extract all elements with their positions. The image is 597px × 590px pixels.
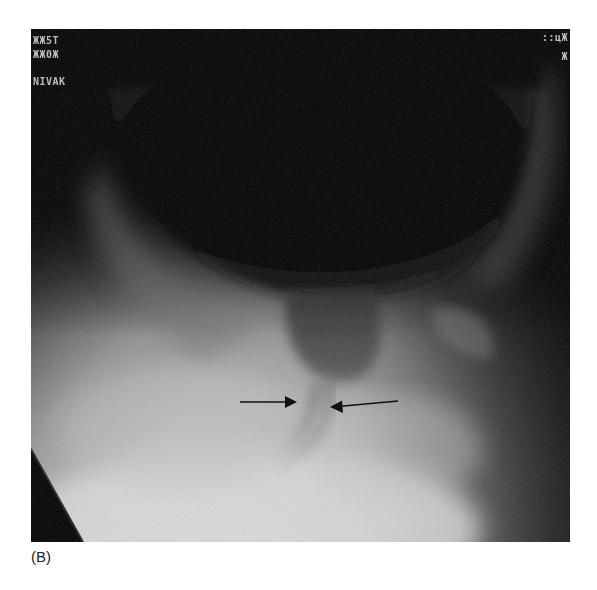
overlay-text-top-left-2: ЖЖ0Ж bbox=[33, 49, 59, 60]
overlay-text-top-right-1: ::цЖ bbox=[542, 32, 568, 43]
overlay-text-top-right-2: Ж bbox=[561, 51, 568, 62]
panel-label: (B) bbox=[31, 548, 51, 565]
overlay-text-top-left-1: ЖЖ5Т bbox=[33, 35, 59, 46]
overlay-text-top-left-3: ΝΙVΑΚ bbox=[33, 76, 66, 87]
fluoroscopy-svg bbox=[31, 29, 570, 542]
fluoroscopy-image: ЖЖ5Т ЖЖ0Ж ΝΙVΑΚ ::цЖ Ж bbox=[31, 29, 570, 542]
